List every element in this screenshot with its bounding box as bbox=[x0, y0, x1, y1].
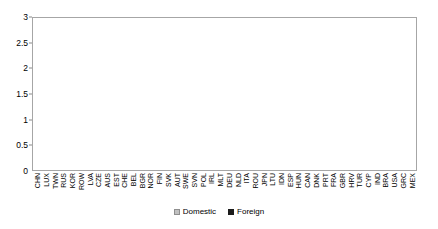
bar-slot bbox=[355, 18, 364, 170]
bar-slot bbox=[364, 18, 373, 170]
bar-slot bbox=[42, 18, 51, 170]
x-axis-label-slot: FRA bbox=[329, 172, 338, 206]
x-axis-label: POL bbox=[199, 173, 206, 187]
x-axis-label-slot: SVK bbox=[164, 172, 173, 206]
bar-slot bbox=[338, 18, 347, 170]
stacked-bar-chart: 00.511.522.53 CHNLUXTWNRUSKORROWLVACZEAU… bbox=[0, 0, 438, 229]
x-axis-label: AUT bbox=[173, 173, 180, 187]
x-axis-label-slot: ROU bbox=[251, 172, 260, 206]
x-axis-label: IDN bbox=[278, 173, 285, 185]
y-axis-tick-label: 1.5 bbox=[16, 90, 28, 99]
bar-slot bbox=[207, 18, 216, 170]
x-axis-label-slot: BRA bbox=[381, 172, 390, 206]
x-axis-label: GBR bbox=[338, 173, 345, 188]
x-axis-label: TWN bbox=[51, 173, 58, 189]
bar-slot bbox=[242, 18, 251, 170]
x-axis-label: CZE bbox=[95, 173, 102, 187]
x-axis-label-slot: IDN bbox=[277, 172, 286, 206]
x-axis-label-slot: BGR bbox=[137, 172, 146, 206]
bar-slot bbox=[77, 18, 86, 170]
bar-slot bbox=[172, 18, 181, 170]
bar-slot bbox=[164, 18, 173, 170]
x-axis-label-slot: TUR bbox=[355, 172, 364, 206]
x-axis-label: HRV bbox=[347, 173, 354, 188]
bar-slot bbox=[303, 18, 312, 170]
x-axis-label-slot: KOR bbox=[68, 172, 77, 206]
y-axis: 00.511.522.53 bbox=[0, 17, 32, 171]
x-axis-label-slot: AUS bbox=[103, 172, 112, 206]
bar-slot bbox=[85, 18, 94, 170]
bar-slot bbox=[181, 18, 190, 170]
bar-slot bbox=[285, 18, 294, 170]
x-axis-label: BRA bbox=[382, 173, 389, 187]
bar-slot bbox=[259, 18, 268, 170]
bar-slot bbox=[268, 18, 277, 170]
bar-slot bbox=[329, 18, 338, 170]
x-axis-label: MLT bbox=[217, 173, 224, 186]
x-axis-label-slot: TWN bbox=[50, 172, 59, 206]
x-axis-label: CYP bbox=[365, 173, 372, 187]
x-axis-label: CAN bbox=[304, 173, 311, 188]
plot-wrapper bbox=[32, 17, 417, 171]
x-axis-label: USA bbox=[391, 173, 398, 187]
bar-slot bbox=[372, 18, 381, 170]
x-axis-label: LTU bbox=[269, 173, 276, 186]
y-axis-tick-label: 3 bbox=[23, 13, 28, 22]
x-axis-label-slot: DNK bbox=[312, 172, 321, 206]
y-axis-tick-label: 1 bbox=[23, 115, 28, 124]
x-axis-label: IRL bbox=[208, 173, 215, 184]
x-axis-label-slot: NOR bbox=[146, 172, 155, 206]
x-axis-label-slot: JPN bbox=[259, 172, 268, 206]
x-axis-label: ROW bbox=[77, 173, 84, 190]
x-axis-label: MEX bbox=[408, 173, 415, 188]
bar-slot bbox=[346, 18, 355, 170]
x-axis-label-slot: DEU bbox=[224, 172, 233, 206]
bar-slot bbox=[137, 18, 146, 170]
x-axis-label-slot: MEX bbox=[407, 172, 416, 206]
bar-slot bbox=[216, 18, 225, 170]
x-axis-label-slot: MLT bbox=[216, 172, 225, 206]
x-axis-label-slot: ESP bbox=[285, 172, 294, 206]
x-axis-label-slot: SVN bbox=[190, 172, 199, 206]
x-axis-label-slot: LTU bbox=[268, 172, 277, 206]
x-axis-label: AUS bbox=[103, 173, 110, 187]
x-axis-label: BGR bbox=[138, 173, 145, 188]
x-axis-label: TUR bbox=[356, 173, 363, 187]
x-axis-label-slot: HUN bbox=[294, 172, 303, 206]
legend-label-foreign: Foreign bbox=[237, 208, 264, 216]
bar-slot bbox=[111, 18, 120, 170]
x-axis-label: ROU bbox=[251, 173, 258, 189]
bar-slot bbox=[224, 18, 233, 170]
x-axis-label-slot: RUS bbox=[59, 172, 68, 206]
bar-slot bbox=[277, 18, 286, 170]
x-axis-label: LUX bbox=[43, 173, 50, 187]
bar-slot bbox=[50, 18, 59, 170]
bar-slot bbox=[251, 18, 260, 170]
x-axis-label: CHN bbox=[34, 173, 41, 188]
x-axis-label: ESP bbox=[286, 173, 293, 187]
bar-slot bbox=[294, 18, 303, 170]
x-axis-label: DEU bbox=[225, 173, 232, 188]
x-axis-label-slot: SWE bbox=[181, 172, 190, 206]
bars-layer bbox=[33, 18, 416, 170]
x-axis-label: SVN bbox=[191, 173, 198, 187]
x-axis-label: NLD bbox=[234, 173, 241, 187]
x-axis-label-slot: PRT bbox=[320, 172, 329, 206]
x-axis-label: BEL bbox=[130, 173, 137, 186]
x-axis-label-slot: ROW bbox=[77, 172, 86, 206]
x-axis-label-slot: CHN bbox=[33, 172, 42, 206]
bar-slot bbox=[59, 18, 68, 170]
x-axis-label: LVA bbox=[86, 173, 93, 185]
x-axis-label-slot: GRC bbox=[399, 172, 408, 206]
x-axis-label: EST bbox=[112, 173, 119, 187]
y-axis-tick-label: 0.5 bbox=[16, 141, 28, 150]
bar-slot bbox=[146, 18, 155, 170]
x-axis-label-slot: AUT bbox=[172, 172, 181, 206]
x-axis-label-slot: CAN bbox=[303, 172, 312, 206]
x-axis-label-slot: GBR bbox=[338, 172, 347, 206]
x-axis-label-slot: CHE bbox=[120, 172, 129, 206]
x-axis-label: ITA bbox=[243, 173, 250, 183]
x-axis-label: PRT bbox=[321, 173, 328, 187]
bar-slot bbox=[399, 18, 408, 170]
bar-slot bbox=[33, 18, 42, 170]
